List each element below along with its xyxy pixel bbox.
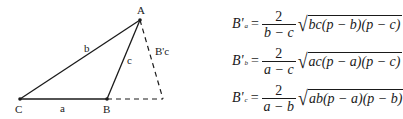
equals-sign: =: [251, 53, 259, 69]
formula-row-b: B'b = 2 a − c √ ac(p − a)(p − c): [232, 43, 402, 79]
formula-lhs: B'b: [232, 53, 248, 69]
side-a-label: a: [60, 102, 65, 114]
denominator: a − c: [262, 61, 296, 77]
altitude-label: B'c: [155, 45, 169, 57]
side-c: [107, 20, 140, 99]
formula-lhs: B'a: [232, 16, 248, 32]
radicand: ab(p − a)(p − b): [308, 89, 403, 107]
vertex-a-dot: [138, 18, 142, 22]
lhs-subscript: a: [245, 22, 249, 30]
square-root: √ ab(p − a)(p − b): [298, 89, 403, 107]
fraction: 2 a − b: [262, 83, 296, 114]
denominator: b − c: [262, 24, 296, 40]
lhs-subscript: b: [245, 59, 249, 67]
numerator: 2: [273, 9, 284, 24]
formula-row-c: B'c = 2 a − b √ ab(p − a)(p − b): [232, 80, 403, 116]
formula-lhs: B'c: [232, 90, 248, 106]
radical-icon: √: [298, 51, 308, 72]
lhs-subscript: c: [245, 96, 248, 104]
fraction: 2 a − c: [262, 46, 296, 77]
lhs-symbol: B': [232, 90, 244, 106]
vertex-c-label: C: [15, 103, 22, 115]
side-c-label: c: [127, 54, 132, 66]
formula-row-a: B'a = 2 b − c √ bc(p − b)(p − c): [232, 6, 402, 42]
numerator: 2: [273, 83, 284, 98]
vertex-a-label: A: [137, 4, 145, 16]
bisector-dashed: [140, 20, 163, 99]
side-b-label: b: [84, 42, 90, 54]
radical-icon: √: [298, 88, 308, 109]
side-b: [20, 20, 140, 99]
radicand: bc(p − b)(p − c): [308, 15, 402, 33]
equals-sign: =: [251, 16, 259, 32]
radicand: ac(p − a)(p − c): [308, 52, 402, 70]
lhs-symbol: B': [232, 53, 244, 69]
numerator: 2: [273, 46, 284, 61]
vertex-b-dot: [105, 97, 109, 101]
square-root: √ ac(p − a)(p − c): [298, 52, 402, 70]
lhs-symbol: B': [232, 16, 244, 32]
square-root: √ bc(p − b)(p − c): [298, 15, 402, 33]
denominator: a − b: [262, 98, 296, 114]
vertex-b-label: B: [103, 103, 110, 115]
triangle-diagram: A B C a b c B'c: [0, 0, 230, 119]
vertex-c-dot: [18, 97, 22, 101]
equals-sign: =: [251, 90, 259, 106]
radical-icon: √: [298, 14, 308, 35]
fraction: 2 b − c: [262, 9, 296, 40]
